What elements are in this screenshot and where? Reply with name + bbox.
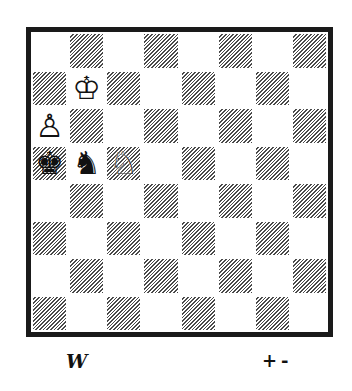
square-d6[interactable] [142, 107, 179, 145]
square-h1[interactable] [291, 295, 328, 333]
square-g3[interactable] [254, 220, 291, 258]
square-g5[interactable] [254, 145, 291, 183]
square-f6[interactable] [217, 107, 254, 145]
square-f2[interactable] [217, 257, 254, 295]
square-g1[interactable] [254, 295, 291, 333]
square-e8[interactable] [180, 32, 217, 70]
square-e1[interactable] [180, 295, 217, 333]
square-h5[interactable] [291, 145, 328, 183]
square-a4[interactable] [31, 182, 68, 220]
square-d2[interactable] [142, 257, 179, 295]
white-king-icon[interactable]: ♔ [68, 70, 105, 108]
square-e7[interactable] [180, 70, 217, 108]
square-c4[interactable] [105, 182, 142, 220]
chessboard-frame: ♔♙♚♞♘ [26, 27, 333, 337]
square-c6[interactable] [105, 107, 142, 145]
square-a2[interactable] [31, 257, 68, 295]
square-e3[interactable] [180, 220, 217, 258]
black-king-icon[interactable]: ♚ [31, 145, 68, 183]
black-knight-icon[interactable]: ♞ [68, 145, 105, 183]
square-g8[interactable] [254, 32, 291, 70]
chessboard: ♔♙♚♞♘ [31, 32, 328, 332]
side-to-move-label: W [66, 350, 87, 372]
square-b7[interactable]: ♔ [68, 70, 105, 108]
square-c2[interactable] [105, 257, 142, 295]
square-d7[interactable] [142, 70, 179, 108]
square-h6[interactable] [291, 107, 328, 145]
square-d3[interactable] [142, 220, 179, 258]
square-a1[interactable] [31, 295, 68, 333]
square-b5[interactable]: ♞ [68, 145, 105, 183]
square-c1[interactable] [105, 295, 142, 333]
square-c7[interactable] [105, 70, 142, 108]
square-f3[interactable] [217, 220, 254, 258]
square-e5[interactable] [180, 145, 217, 183]
square-a7[interactable] [31, 70, 68, 108]
square-f4[interactable] [217, 182, 254, 220]
square-h7[interactable] [291, 70, 328, 108]
square-e4[interactable] [180, 182, 217, 220]
white-knight-icon[interactable]: ♘ [105, 145, 142, 183]
evaluation-label: +- [262, 350, 293, 371]
square-a5[interactable]: ♚ [31, 145, 68, 183]
square-b2[interactable] [68, 257, 105, 295]
square-d4[interactable] [142, 182, 179, 220]
square-c5[interactable]: ♘ [105, 145, 142, 183]
square-b1[interactable] [68, 295, 105, 333]
square-b4[interactable] [68, 182, 105, 220]
square-d8[interactable] [142, 32, 179, 70]
square-g2[interactable] [254, 257, 291, 295]
square-h4[interactable] [291, 182, 328, 220]
square-a3[interactable] [31, 220, 68, 258]
square-f7[interactable] [217, 70, 254, 108]
square-h8[interactable] [291, 32, 328, 70]
square-g6[interactable] [254, 107, 291, 145]
square-e6[interactable] [180, 107, 217, 145]
square-d1[interactable] [142, 295, 179, 333]
square-f1[interactable] [217, 295, 254, 333]
square-d5[interactable] [142, 145, 179, 183]
square-b3[interactable] [68, 220, 105, 258]
square-a6[interactable]: ♙ [31, 107, 68, 145]
square-a8[interactable] [31, 32, 68, 70]
square-g7[interactable] [254, 70, 291, 108]
square-b8[interactable] [68, 32, 105, 70]
square-h2[interactable] [291, 257, 328, 295]
square-e2[interactable] [180, 257, 217, 295]
square-c8[interactable] [105, 32, 142, 70]
square-c3[interactable] [105, 220, 142, 258]
square-h3[interactable] [291, 220, 328, 258]
square-f5[interactable] [217, 145, 254, 183]
white-pawn-icon[interactable]: ♙ [31, 107, 68, 145]
square-g4[interactable] [254, 182, 291, 220]
square-b6[interactable] [68, 107, 105, 145]
square-f8[interactable] [217, 32, 254, 70]
